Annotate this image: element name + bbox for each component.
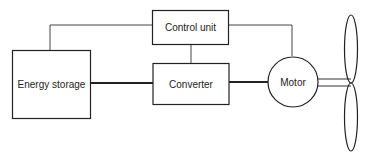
motor-block: Motor (268, 57, 318, 107)
motor-label: Motor (280, 77, 306, 88)
energy-storage-block: Energy storage (13, 51, 91, 119)
control-line-motor (229, 25, 292, 56)
control-line-storage (50, 25, 152, 50)
control-unit-block: Control unit (153, 11, 229, 45)
converter-label: Converter (169, 79, 214, 90)
propeller-icon (345, 15, 358, 151)
control-unit-label: Control unit (165, 22, 216, 33)
converter-block: Converter (153, 64, 229, 105)
powertrain-diagram: Energy storage Control unit Converter Mo… (0, 0, 370, 161)
energy-storage-label: Energy storage (18, 79, 86, 90)
